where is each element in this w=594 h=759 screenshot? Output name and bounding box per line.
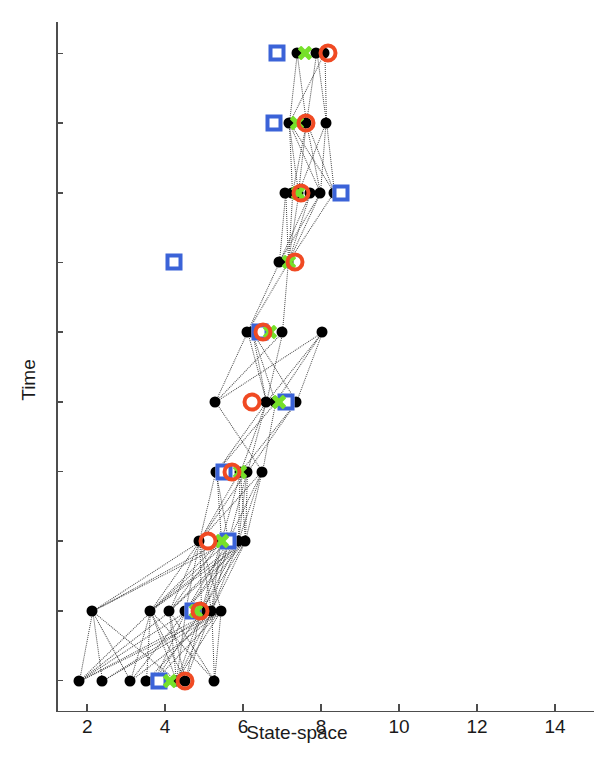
marker-circle [297,114,316,133]
marker-square [165,254,182,271]
marker-particle [256,466,267,477]
marker-particle [96,675,107,686]
x-tick-label-2: 2 [82,716,93,738]
marker-circle [242,392,261,411]
marker-particle [316,327,327,338]
marker-square [266,115,283,132]
marker-circle [175,671,194,690]
marker-cross [297,45,313,61]
marker-particle [210,396,221,407]
marker-particle [320,118,331,129]
marker-particle [215,605,226,616]
x-tick-label-12: 12 [466,716,487,738]
marker-circle [191,601,210,620]
marker-particle [145,605,156,616]
marker-square [333,184,350,201]
x-tick-label-8: 8 [316,716,327,738]
marker-circle [285,253,304,272]
marker-particle [86,605,97,616]
marker-square [269,45,286,62]
marker-particle [73,675,84,686]
marker-circle [199,532,218,551]
plot-area: 123456789102468101214 [56,22,594,712]
marker-circle [223,462,242,481]
marker-particle [125,675,136,686]
marker-circle [291,183,310,202]
marker-particle [240,536,251,547]
marker-circle [254,323,273,342]
marker-particle [208,675,219,686]
marker-circle [319,44,338,63]
marker-particle [315,187,326,198]
x-tick-label-10: 10 [388,716,409,738]
particle-trajectory-figure: Time State-space 123456789102468101214 [0,0,594,759]
marker-particle [164,605,175,616]
marker-cross [271,394,287,410]
x-tick-label-6: 6 [238,716,249,738]
x-tick-label-4: 4 [160,716,171,738]
x-tick-label-14: 14 [544,716,565,738]
data-markers [56,22,594,712]
marker-particle [277,327,288,338]
y-axis-title: Time [18,359,40,401]
